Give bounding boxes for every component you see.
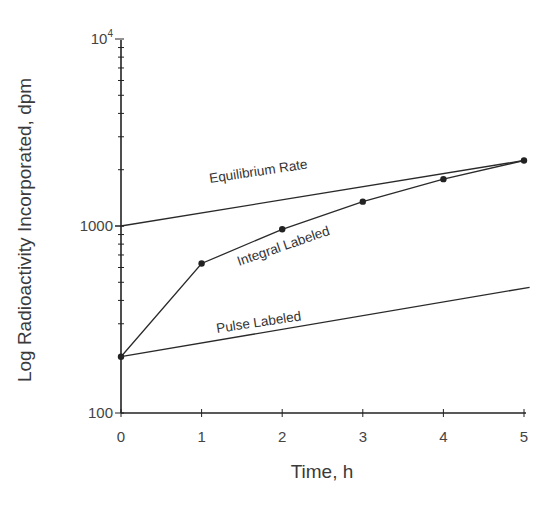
series-line-1 xyxy=(121,161,524,357)
x-tick-label: 2 xyxy=(278,428,286,445)
y-axis-title: Log Radioactivity Incorporated, dpm xyxy=(14,78,35,382)
series-line-2 xyxy=(121,287,530,356)
x-tick-label: 5 xyxy=(520,428,528,445)
y-tick-label: 104 xyxy=(91,28,114,47)
data-point xyxy=(440,176,446,182)
chart: 1001000104 012345 Log Radioactivity Inco… xyxy=(0,0,556,505)
series-label-pulse: Pulse Labeled xyxy=(215,308,302,335)
y-tick-label: 100 xyxy=(88,404,113,421)
data-point xyxy=(360,198,366,204)
x-tick-label: 0 xyxy=(117,428,125,445)
data-point xyxy=(521,157,527,163)
x-tick-label: 1 xyxy=(197,428,205,445)
x-tick-label: 3 xyxy=(359,428,367,445)
x-axis-title: Time, h xyxy=(291,461,354,482)
series-label-equilibrium: Equilibrium Rate xyxy=(208,156,308,185)
y-tick-labels: 1001000104 xyxy=(80,28,114,421)
series-line-0 xyxy=(121,161,524,227)
series-group xyxy=(118,157,530,360)
y-tick-label: 1000 xyxy=(80,217,113,234)
x-tick-label: 4 xyxy=(439,428,447,445)
data-point xyxy=(279,226,285,232)
x-tick-labels: 012345 xyxy=(117,428,528,445)
data-point xyxy=(198,260,204,266)
